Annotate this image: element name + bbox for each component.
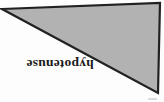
scan-smudge-mark	[148, 98, 157, 100]
hypotenuse-label: hypotenuse	[26, 57, 93, 72]
triangle-shape	[2, 3, 160, 93]
triangle-figure: hypotenuse	[0, 0, 164, 102]
right-triangle-svg: hypotenuse	[0, 0, 164, 102]
